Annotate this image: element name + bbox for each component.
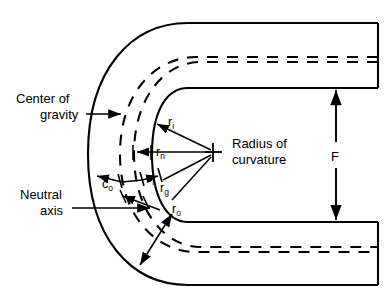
diagram-canvas: Center of gravity Neutral axis Radius of… (0, 0, 391, 306)
leader-r-outer (172, 157, 211, 200)
r-neutral-label: rn (156, 145, 165, 161)
center-of-curvature-marker (205, 143, 222, 162)
r-outer-sub: o (176, 208, 181, 218)
depth-dimension-label: F (331, 149, 339, 164)
radius-of-curvature-label-line1: Radius of (232, 136, 287, 151)
radius-of-curvature-label-line2: curvature (232, 152, 286, 167)
r-gravity-label: rg (160, 181, 169, 197)
leader-r-inner (157, 124, 211, 150)
curved-beam-diagram: Center of gravity Neutral axis Radius of… (0, 0, 391, 306)
c-outer-sub: o (108, 183, 113, 193)
leader-r-gravity (163, 155, 211, 180)
center-of-gravity-label-line1: Center of (16, 91, 70, 106)
radial-leaders (149, 124, 211, 200)
r-inner-sub: i (172, 121, 174, 131)
r-inner-label: ri (168, 115, 174, 131)
c-outer-to-cg (122, 180, 142, 182)
r-neutral-sub: n (160, 151, 165, 161)
neutral-axis-label-line1: Neutral (20, 187, 62, 202)
neutral-axis-label-line2: axis (40, 203, 64, 218)
outer-bottom-arrow (140, 214, 172, 265)
r-outer-label: ro (172, 202, 181, 218)
lower-span-ticks (120, 190, 149, 209)
center-of-gravity-label-line2: gravity (40, 107, 79, 122)
c-inner-sub: i (152, 177, 154, 187)
r-gravity-sub: g (164, 187, 169, 197)
